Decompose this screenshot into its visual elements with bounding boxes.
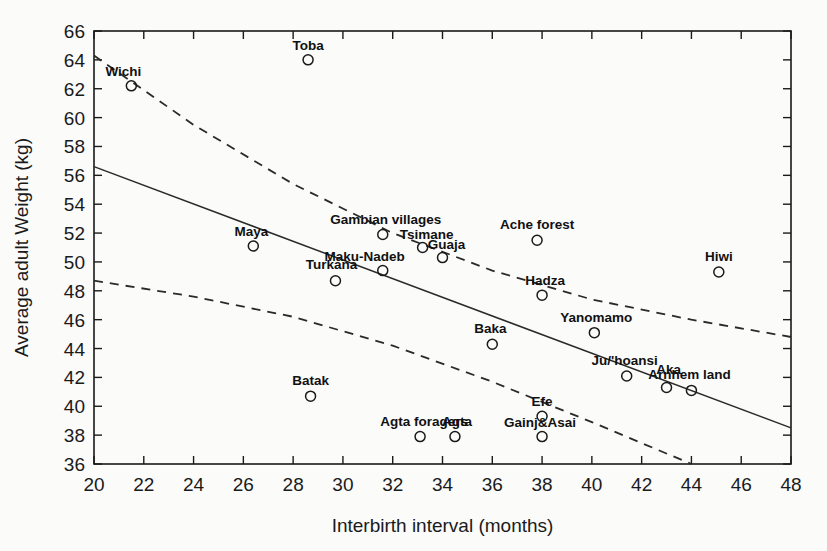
data-point-label: Batak xyxy=(292,373,329,388)
x-axis-title: Interbirth interval (months) xyxy=(332,515,554,536)
data-point-label: Wichi xyxy=(105,64,141,79)
data-point-label: Ache forest xyxy=(500,217,575,232)
x-tick-label-42: 42 xyxy=(631,474,652,495)
data-point-label: Efe xyxy=(532,394,554,409)
data-point-marker[interactable] xyxy=(589,328,599,338)
y-tick-label-58: 58 xyxy=(64,136,85,157)
data-point-marker[interactable] xyxy=(450,432,460,442)
data-point-label: Gainj&Asai xyxy=(504,415,576,430)
plot-canvas: 2022242628303234363840424446483638404244… xyxy=(0,0,827,551)
y-tick-label-42: 42 xyxy=(64,367,85,388)
y-tick-label-50: 50 xyxy=(64,252,85,273)
y-tick-label-46: 46 xyxy=(64,310,85,331)
data-point-marker[interactable] xyxy=(378,230,388,240)
data-point-label: Agta xyxy=(442,414,472,429)
data-point-marker[interactable] xyxy=(248,241,258,251)
data-point-label: Hadza xyxy=(525,273,565,288)
y-tick-label-40: 40 xyxy=(64,396,85,417)
data-point-label: Arnhem land xyxy=(648,367,731,382)
data-point-marker[interactable] xyxy=(622,371,632,381)
data-point-marker[interactable] xyxy=(438,253,448,263)
data-point-label: Gambian villages xyxy=(330,212,441,227)
y-tick-label-66: 66 xyxy=(64,21,85,42)
y-tick-label-64: 64 xyxy=(64,50,86,71)
y-tick-label-38: 38 xyxy=(64,425,85,446)
x-tick-label-30: 30 xyxy=(332,474,353,495)
data-point-marker[interactable] xyxy=(126,81,136,91)
data-point-label: Maya xyxy=(234,224,268,239)
x-tick-label-26: 26 xyxy=(233,474,254,495)
y-axis-title: Average adult Weight (kg) xyxy=(11,138,32,357)
data-point-marker[interactable] xyxy=(662,383,672,393)
data-point-label: Hiwi xyxy=(705,249,733,264)
x-tick-label-44: 44 xyxy=(681,474,703,495)
y-tick-label-54: 54 xyxy=(64,194,86,215)
data-point-marker[interactable] xyxy=(303,55,313,65)
x-tick-label-36: 36 xyxy=(482,474,503,495)
y-tick-label-44: 44 xyxy=(64,339,86,360)
scatter-plot-figure: 2022242628303234363840424446483638404244… xyxy=(0,0,827,551)
lower-confidence-band xyxy=(94,281,691,464)
upper-confidence-band xyxy=(94,56,791,337)
x-tick-label-32: 32 xyxy=(382,474,403,495)
data-point-label: Toba xyxy=(292,38,324,53)
x-tick-label-34: 34 xyxy=(432,474,454,495)
x-tick-label-28: 28 xyxy=(283,474,304,495)
data-point-label: Yanomamo xyxy=(560,310,632,325)
data-point-marker[interactable] xyxy=(537,290,547,300)
data-point-label: Ju/'hoansi xyxy=(592,353,658,368)
data-point-marker[interactable] xyxy=(537,432,547,442)
y-tick-label-52: 52 xyxy=(64,223,85,244)
x-tick-label-38: 38 xyxy=(532,474,553,495)
y-tick-label-62: 62 xyxy=(64,79,85,100)
y-tick-label-48: 48 xyxy=(64,281,85,302)
data-point-label: Turkana xyxy=(306,257,358,272)
data-point-label: Guaja xyxy=(428,237,466,252)
data-point-marker[interactable] xyxy=(415,432,425,442)
data-point-marker[interactable] xyxy=(532,235,542,245)
y-tick-label-36: 36 xyxy=(64,454,85,475)
data-point-marker[interactable] xyxy=(306,391,316,401)
x-tick-label-40: 40 xyxy=(581,474,602,495)
x-tick-label-20: 20 xyxy=(83,474,104,495)
x-tick-label-22: 22 xyxy=(133,474,154,495)
x-tick-label-24: 24 xyxy=(183,474,205,495)
x-tick-label-46: 46 xyxy=(731,474,752,495)
data-point-marker[interactable] xyxy=(378,266,388,276)
data-point-marker[interactable] xyxy=(714,267,724,277)
y-tick-label-56: 56 xyxy=(64,165,85,186)
data-point-marker[interactable] xyxy=(487,339,497,349)
y-tick-label-60: 60 xyxy=(64,108,85,129)
data-point-marker[interactable] xyxy=(418,243,428,253)
x-tick-label-48: 48 xyxy=(780,474,801,495)
data-point-label: Baka xyxy=(474,321,507,336)
data-point-marker[interactable] xyxy=(330,276,340,286)
